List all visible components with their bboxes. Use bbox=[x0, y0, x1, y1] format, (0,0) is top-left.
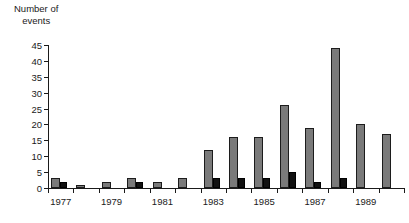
x-tick-mark bbox=[150, 189, 151, 193]
bar-black-1988 bbox=[340, 178, 347, 188]
bar-gray-1987 bbox=[305, 128, 314, 188]
bar-gray-1980 bbox=[127, 178, 136, 188]
bar-gray-1990 bbox=[382, 134, 391, 188]
x-tick-mark bbox=[251, 189, 252, 193]
bar-black-1977 bbox=[60, 182, 67, 188]
y-tick-label: 35 bbox=[31, 71, 42, 82]
x-tick-label: 1979 bbox=[101, 196, 122, 207]
y-tick-label: 20 bbox=[31, 119, 42, 130]
x-tick-mark bbox=[353, 189, 354, 193]
bar-black-1987 bbox=[314, 182, 321, 188]
bar-gray-1981 bbox=[153, 182, 162, 188]
x-tick-label: 1977 bbox=[50, 196, 71, 207]
bar-black-1983 bbox=[213, 178, 220, 188]
y-tick-label: 45 bbox=[31, 40, 42, 51]
bar-black-1980 bbox=[136, 182, 143, 188]
bar-gray-1983 bbox=[204, 150, 213, 188]
x-tick-label: 1987 bbox=[304, 196, 325, 207]
bar-gray-1986 bbox=[280, 105, 289, 188]
bar-gray-1985 bbox=[254, 137, 263, 188]
x-tick-mark bbox=[201, 189, 202, 193]
x-tick-mark bbox=[73, 189, 74, 193]
x-tick-mark bbox=[302, 189, 303, 193]
y-tick-label: 0 bbox=[37, 183, 42, 194]
y-tick-label: 15 bbox=[31, 135, 42, 146]
bar-black-1985 bbox=[263, 178, 270, 188]
x-tick-label: 1985 bbox=[254, 196, 275, 207]
y-tick-label: 10 bbox=[31, 151, 42, 162]
y-tick-label: 25 bbox=[31, 103, 42, 114]
y-tick-label: 5 bbox=[37, 167, 42, 178]
x-tick-mark bbox=[124, 189, 125, 193]
x-tick-mark bbox=[175, 189, 176, 193]
y-axis-title: Number of events bbox=[14, 3, 58, 27]
x-tick-mark bbox=[48, 189, 49, 193]
bar-chart: Number of events 051015202530354045 1977… bbox=[0, 0, 409, 223]
bars-layer bbox=[48, 45, 405, 188]
y-tick-label: 40 bbox=[31, 55, 42, 66]
bar-gray-1984 bbox=[229, 137, 238, 188]
bar-black-1986 bbox=[289, 172, 296, 188]
bar-gray-1982 bbox=[178, 178, 187, 188]
x-tick-label: 1981 bbox=[152, 196, 173, 207]
bar-gray-1977 bbox=[51, 178, 60, 188]
bar-gray-1979 bbox=[102, 182, 111, 188]
y-tick-label: 30 bbox=[31, 87, 42, 98]
x-tick-mark bbox=[328, 189, 329, 193]
y-axis-title-line1: Number of bbox=[14, 3, 58, 14]
x-tick-mark bbox=[99, 189, 100, 193]
bar-gray-1978 bbox=[76, 185, 85, 188]
bar-gray-1989 bbox=[356, 124, 365, 188]
x-tick-label: 1983 bbox=[203, 196, 224, 207]
y-axis-title-line2: events bbox=[14, 15, 58, 27]
bar-black-1984 bbox=[238, 178, 245, 188]
x-tick-mark bbox=[277, 189, 278, 193]
x-tick-label: 1989 bbox=[355, 196, 376, 207]
bar-gray-1988 bbox=[331, 48, 340, 188]
x-tick-mark bbox=[379, 189, 380, 193]
x-tick-mark bbox=[404, 189, 405, 193]
x-tick-mark bbox=[226, 189, 227, 193]
